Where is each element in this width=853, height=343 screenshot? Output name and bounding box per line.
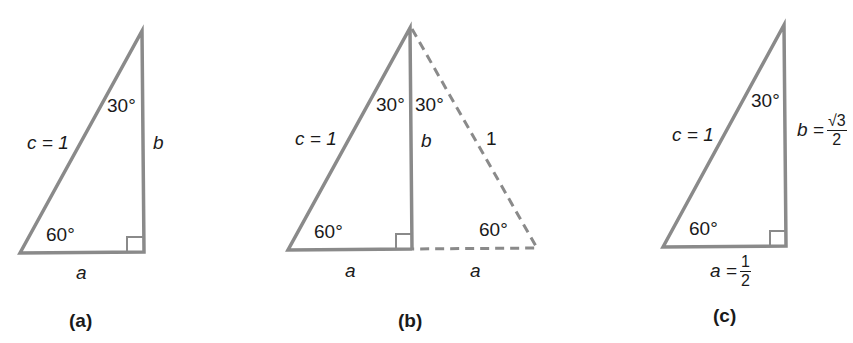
angle-label-60-a: 60° [46, 225, 75, 244]
dashed-side-label-b: 1 [486, 129, 497, 148]
caption-a: (a) [69, 311, 92, 330]
side-b-denominator-c: 2 [832, 131, 841, 148]
diagram-canvas [0, 0, 853, 343]
side-a-denominator-c: 2 [741, 272, 750, 289]
side-a-label-b-right: a [470, 261, 481, 280]
side-b-prefix-c: b = [797, 119, 824, 140]
side-b-numerator-c: √3 [827, 113, 847, 131]
caption-b: (b) [398, 311, 422, 330]
side-b-fraction-c: √32 [827, 113, 847, 148]
angle-label-60-b-right: 60° [479, 220, 508, 239]
side-a-prefix-c: a = [710, 260, 737, 281]
side-b-label-b: b [421, 131, 432, 150]
angle-label-30-b-right: 30° [415, 95, 444, 114]
angle-label-30-a: 30° [107, 96, 136, 115]
side-a-label-b-left: a [345, 261, 356, 280]
side-a-numerator-c: 1 [740, 254, 751, 272]
side-a-label-c: a =12 [710, 254, 751, 289]
angle-label-60-c: 60° [689, 219, 718, 238]
side-a-fraction-c: 12 [740, 254, 751, 289]
hypotenuse-label-b: c = 1 [295, 129, 337, 148]
hypotenuse-label-c: c = 1 [672, 125, 714, 144]
hypotenuse-label-a: c = 1 [27, 133, 69, 152]
side-a-label-a: a [76, 263, 87, 282]
side-b-label-c: b =√32 [797, 113, 847, 148]
side-b-label-a: b [153, 133, 164, 152]
angle-label-30-b-left: 30° [376, 95, 405, 114]
angle-label-60-b-left: 60° [314, 222, 343, 241]
angle-label-30-c: 30° [751, 91, 780, 110]
caption-c: (c) [713, 306, 736, 325]
